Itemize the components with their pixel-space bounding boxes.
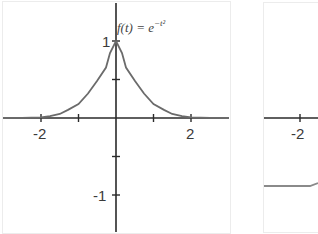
formula-lhs: f(t) = e <box>117 20 154 35</box>
p2-curve <box>264 183 318 186</box>
formula-annotation: f(t) = e−t² <box>117 18 166 35</box>
x-tick-label-neg2: -2 <box>33 125 46 142</box>
plots-canvas: -2 2 1 -1 f(t) = e−t² -2 <box>0 0 318 234</box>
y-tick-label-neg1: -1 <box>93 187 106 204</box>
p2-x-tick-label-neg2: -2 <box>291 125 304 142</box>
y-tick-label-1: 1 <box>102 33 110 50</box>
formula-exponent: −t² <box>154 18 166 28</box>
x-tick-label-2: 2 <box>186 125 194 142</box>
